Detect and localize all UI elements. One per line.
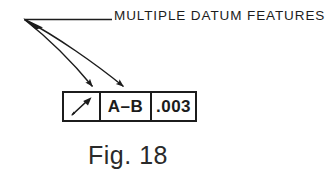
leader-line-2	[25, 20, 124, 87]
figure-container: MULTIPLE DATUM FEATURES A–B .003 Fig. 18	[0, 0, 330, 183]
callout-label: MULTIPLE DATUM FEATURES	[114, 8, 325, 24]
circular-runout-symbol	[69, 96, 95, 118]
tolerance-value-cell: .003	[150, 93, 195, 120]
datum-reference-text: A–B	[108, 98, 144, 115]
feature-control-frame: A–B .003	[62, 91, 197, 122]
geometric-characteristic-cell	[64, 93, 99, 120]
tolerance-value-text: .003	[156, 98, 191, 115]
leader-line-1	[25, 20, 93, 87]
figure-caption: Fig. 18	[0, 140, 256, 170]
datum-reference-cell: A–B	[99, 93, 150, 120]
